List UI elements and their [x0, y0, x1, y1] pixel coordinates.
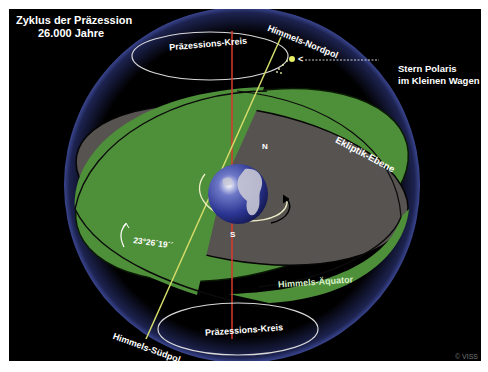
polaris-arrow: < [298, 54, 303, 64]
north-marker: N [262, 142, 268, 151]
diagram-subtitle: 26.000 Jahre [38, 27, 104, 40]
polaris-label: Stern Polaris im Kleinen Wagen [398, 63, 479, 87]
diagram-frame: Zyklus der Präzession 26.000 Jahre Präze… [9, 9, 481, 361]
south-marker: S [230, 230, 235, 239]
diagram-title: Zyklus der Präzession [16, 14, 132, 27]
polaris-label-line2: im Kleinen Wagen [398, 75, 479, 87]
copyright: © VISS [455, 353, 478, 360]
precession-diagram [9, 9, 481, 361]
polaris-star [289, 56, 295, 62]
polaris-label-line1: Stern Polaris [398, 63, 479, 75]
